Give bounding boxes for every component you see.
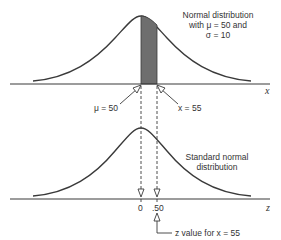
up-arrow-icon xyxy=(154,213,160,221)
x-value-pointer xyxy=(161,89,178,104)
top-axis-label: x xyxy=(265,86,269,96)
tick-label-050: .50 xyxy=(152,203,164,213)
mean-pointer xyxy=(120,89,137,104)
down-arrow-050-icon xyxy=(154,189,160,197)
z-value-bracket xyxy=(157,221,172,233)
mean-label: μ = 50 xyxy=(94,103,118,113)
annotation-line-2: distribution xyxy=(180,162,254,172)
down-arrow-0-icon xyxy=(138,189,144,197)
z-value-note: z value for x = 55 xyxy=(175,228,240,238)
x-value-label: x = 55 xyxy=(178,103,201,113)
annotation-line-2: with μ = 50 and xyxy=(176,20,260,30)
shaded-area xyxy=(141,16,157,84)
bottom-axis-label: z xyxy=(266,203,270,213)
annotation-line-1: Standard normal xyxy=(180,152,254,162)
annotation-line-3: σ = 10 xyxy=(176,30,260,40)
tick-label-0: 0 xyxy=(138,203,143,213)
standard-normal-annotation: Standard normal distribution xyxy=(180,152,254,172)
normal-distribution-annotation: Normal distribution with μ = 50 and σ = … xyxy=(176,10,260,40)
annotation-line-1: Normal distribution xyxy=(176,10,260,20)
